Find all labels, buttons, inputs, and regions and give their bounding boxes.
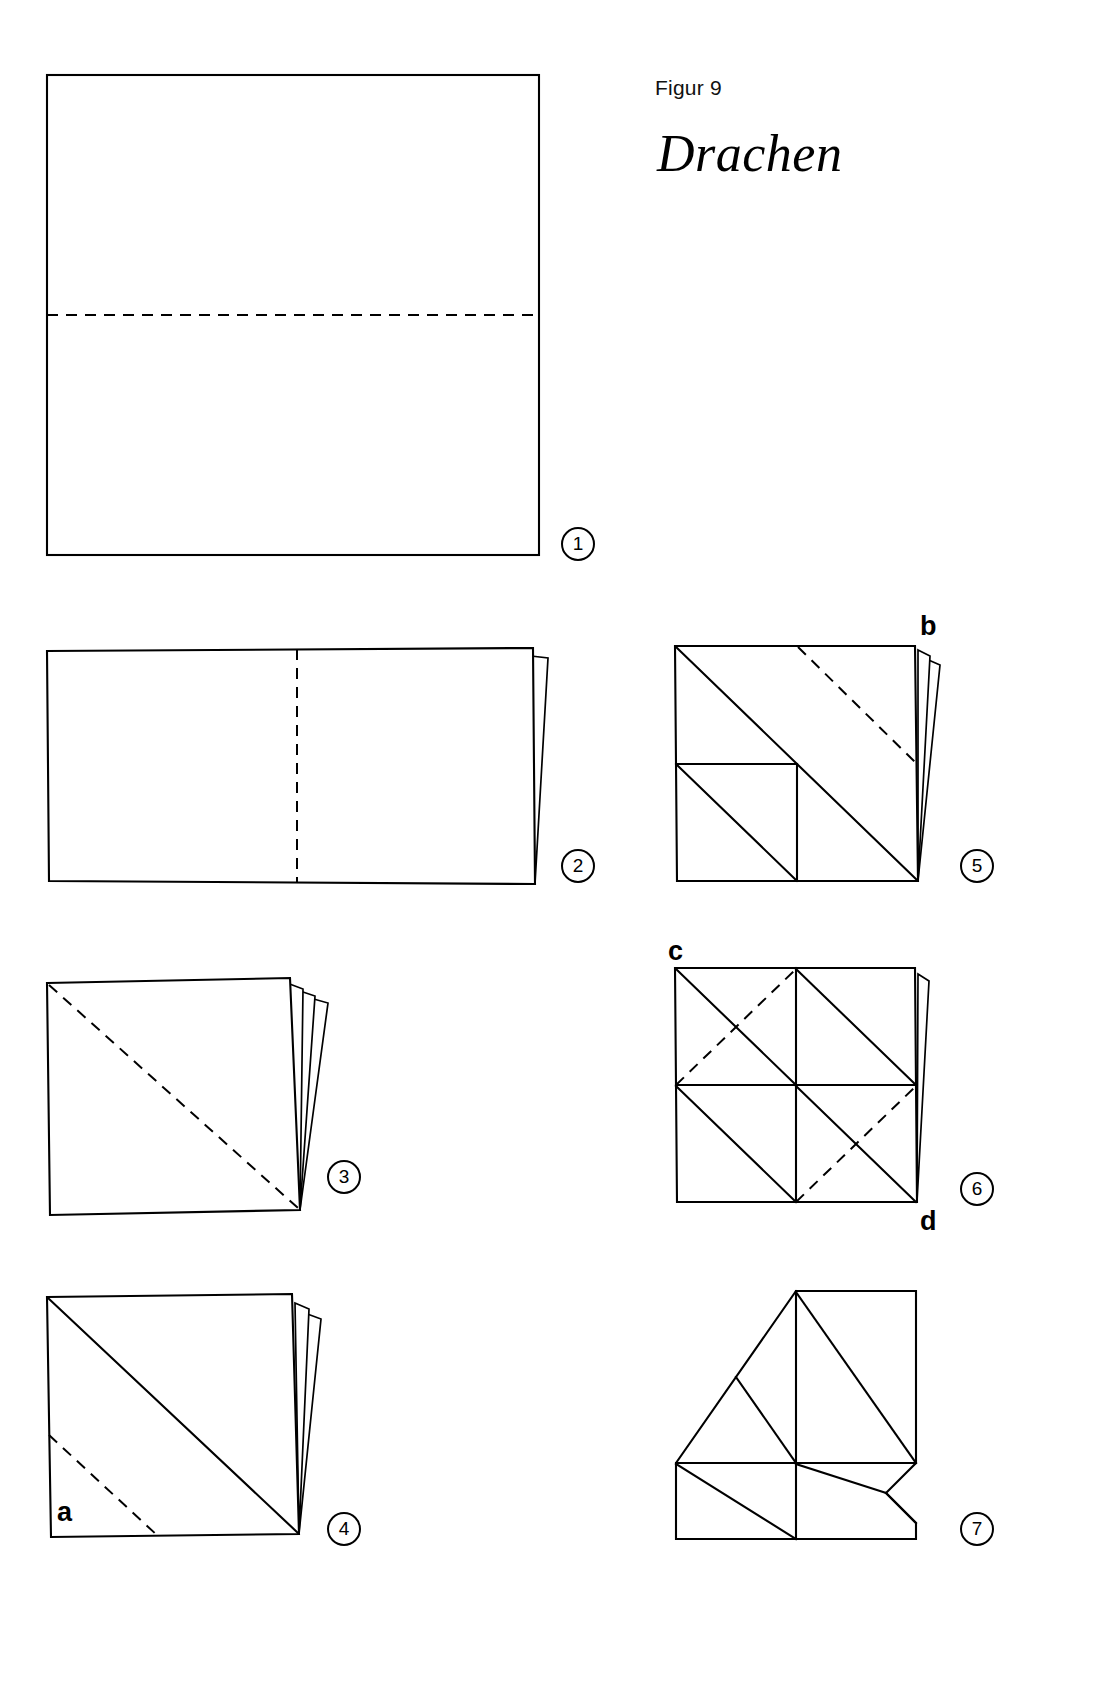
point-label-b: b [920, 613, 937, 640]
step-number-4: 4 [327, 1512, 361, 1546]
figure-label: Figur 9 [655, 76, 722, 100]
point-label-c: c [668, 938, 683, 965]
step-number-6: 6 [960, 1172, 994, 1206]
step-1-diagram [44, 72, 554, 562]
step-number-5: 5 [960, 849, 994, 883]
paper-square [47, 978, 300, 1215]
point-label-d: d [920, 1208, 937, 1235]
step-3-drawing [40, 972, 340, 1222]
paper-rectangle [47, 648, 535, 884]
step-number-7: 7 [960, 1512, 994, 1546]
paper-flap-1 [917, 974, 929, 1202]
step-1-drawing [44, 72, 554, 562]
step-3-diagram [40, 972, 340, 1222]
step-4-drawing [40, 1288, 340, 1548]
step-5-diagram [668, 638, 968, 893]
step-number-2: 2 [561, 849, 595, 883]
origami-instruction-page: Figur 9 Drachen 1 2 3 [0, 0, 1120, 1690]
step-7-drawing [668, 1283, 968, 1548]
step-2-drawing [44, 645, 564, 890]
step-4-diagram [40, 1288, 340, 1548]
step-2-diagram [44, 645, 564, 890]
step-6-diagram [668, 960, 968, 1215]
point-label-a: a [57, 1499, 72, 1526]
step-5-drawing [668, 638, 968, 893]
step-7-diagram [668, 1283, 968, 1548]
step-number-3: 3 [327, 1160, 361, 1194]
figure-title: Drachen [657, 124, 842, 183]
step-number-1: 1 [561, 527, 595, 561]
step-6-drawing [668, 960, 968, 1215]
